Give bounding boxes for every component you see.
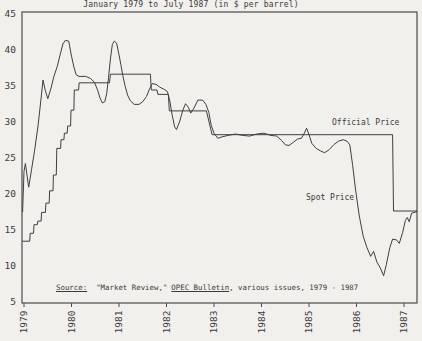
source-part2: OPEC Bulletin — [171, 283, 229, 292]
y-tick-label: 5 — [0, 296, 16, 307]
plot-frame — [22, 12, 417, 303]
x-tick-label: 1980 — [66, 307, 78, 337]
source-label: Source: — [56, 283, 87, 292]
y-tick-label: 25 — [0, 152, 16, 163]
y-tick-label: 35 — [0, 80, 16, 91]
price-chart-figure: January 1979 to July 1987 (in $ per barr… — [0, 0, 422, 341]
official-price-label: Official Price — [332, 118, 399, 127]
y-tick-label: 10 — [0, 260, 16, 271]
spot-price-label: Spot Price — [306, 193, 354, 202]
official-price-line — [23, 74, 417, 241]
y-tick-label: 20 — [0, 188, 16, 199]
x-tick-label: 1982 — [161, 307, 173, 337]
x-tick-label: 1981 — [113, 307, 125, 337]
source-part3: , various issues, 1979 - 1987 — [229, 283, 358, 292]
spot-price-line — [23, 40, 417, 275]
source-note: Source:"Market Review,"OPEC Bulletin, va… — [56, 283, 358, 292]
y-tick-label: 40 — [0, 44, 16, 55]
x-tick-label: 1984 — [256, 307, 268, 337]
y-tick-label: 45 — [0, 8, 16, 19]
x-tick-label: 1986 — [351, 307, 363, 337]
x-tick-label: 1983 — [208, 307, 220, 337]
y-tick-label: 30 — [0, 116, 16, 127]
y-tick-label: 15 — [0, 224, 16, 235]
x-tick-label: 1979 — [18, 307, 30, 337]
source-part1: "Market Review," — [96, 283, 167, 292]
x-tick-label: 1985 — [303, 307, 315, 337]
x-tick-label: 1987 — [398, 307, 410, 337]
